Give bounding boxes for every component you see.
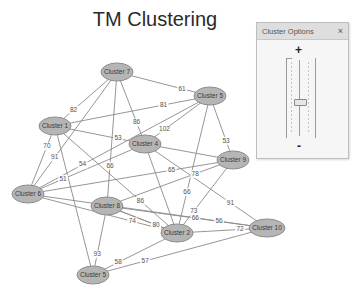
cluster-node-label: Cluster 5 (80, 271, 106, 278)
edge-weight-label: 93 (94, 250, 102, 257)
edge-weight-label: 74 (129, 217, 137, 224)
cluster-node-label: Cluster 4 (132, 140, 158, 147)
cluster-node-label: Cluster 10 (252, 224, 282, 231)
edge-weight-label: 53 (114, 134, 122, 141)
edge-weight-label: 91 (51, 153, 59, 160)
edge-weight-label: 66 (192, 214, 200, 221)
edge-weight-label: 56 (215, 217, 223, 224)
edge-weight-label: 102 (159, 125, 170, 132)
cluster-node-c7[interactable]: Cluster 7 (101, 63, 133, 81)
cluster-node-label: Cluster 1 (42, 122, 68, 129)
edge-c4-c10 (145, 144, 267, 228)
zoom-out-minus-icon[interactable]: - (297, 139, 301, 153)
edge-weight-label: 51 (59, 175, 67, 182)
cluster-node-c5b[interactable]: Cluster 5 (77, 266, 109, 284)
edge-c4-c2 (145, 144, 177, 233)
panel-body: + - (257, 40, 348, 158)
slider-ticks-left (291, 62, 292, 134)
cluster-node-c9[interactable]: Cluster 9 (217, 151, 249, 169)
edge-c4-c6 (28, 144, 145, 194)
cluster-node-c4[interactable]: Cluster 4 (129, 135, 161, 153)
edge-weight-label: 86 (133, 118, 141, 125)
slider-ticks-right (308, 62, 309, 134)
edge-weight-label: 53 (222, 137, 230, 144)
cluster-node-label: Cluster 7 (104, 68, 130, 75)
cluster-node-label: Cluster 8 (94, 202, 120, 209)
slider-thumb[interactable] (294, 99, 307, 106)
cluster-node-label: Cluster 5 (197, 92, 223, 99)
edge-weight-label: 65 (168, 166, 176, 173)
zoom-in-plus-icon[interactable]: + (295, 43, 302, 57)
edge-weight-label: 66 (106, 162, 114, 169)
edge-weight-label: 61 (178, 85, 186, 92)
cluster-node-c6[interactable]: Cluster 6 (12, 185, 44, 203)
cluster-node-c8[interactable]: Cluster 8 (91, 197, 123, 215)
cluster-node-label: Cluster 2 (164, 229, 190, 236)
cluster-node-c10[interactable]: Cluster 10 (249, 219, 285, 237)
edge-weight-label: 57 (142, 257, 150, 264)
cluster-node-c2[interactable]: Cluster 2 (161, 224, 193, 242)
edge-c5a-c9 (210, 96, 233, 160)
panel-title: Cluster Options (262, 27, 314, 36)
cluster-node-label: Cluster 6 (15, 190, 41, 197)
cluster-node-label: Cluster 9 (220, 156, 246, 163)
close-icon[interactable]: × (338, 26, 343, 36)
edge-c7-c1 (55, 72, 117, 126)
edge-weight-label: 54 (79, 160, 87, 167)
edge-weight-label: 86 (137, 197, 145, 204)
edge-weight-label: 70 (43, 142, 51, 149)
edge-c7-c6 (28, 72, 117, 194)
cluster-options-panel: Cluster Options × + - (256, 22, 349, 159)
edge-weight-label: 91 (227, 199, 235, 206)
edge-weight-label: 78 (192, 170, 200, 177)
edge-c2-c5b (93, 233, 177, 275)
edge-weight-label: 80 (152, 221, 160, 228)
edge-weight-label: 66 (183, 188, 191, 195)
edge-weight-label: 72 (236, 225, 244, 232)
edge-weight-label: 82 (70, 106, 78, 113)
edge-c8-c5b (93, 206, 107, 275)
edge-weight-label: 58 (115, 258, 123, 265)
cluster-node-c1[interactable]: Cluster 1 (39, 117, 71, 135)
cluster-node-c5a[interactable]: Cluster 5 (194, 87, 226, 105)
edge-weight-label: 81 (160, 101, 168, 108)
panel-header[interactable]: Cluster Options × (257, 23, 348, 40)
